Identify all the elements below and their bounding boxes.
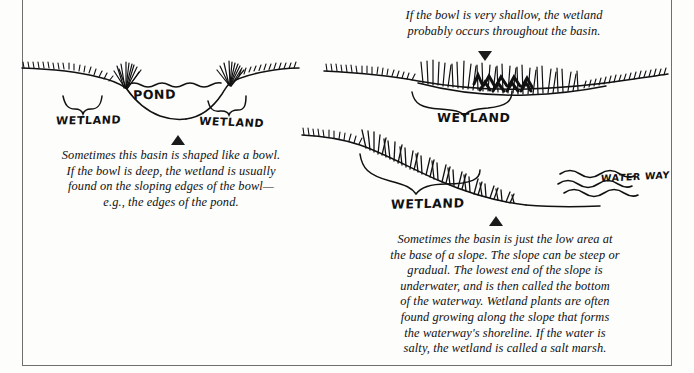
caption-line: gradual. The lowest end of the slope is bbox=[352, 263, 658, 279]
caption-line: underwater, and is then called the botto… bbox=[352, 279, 658, 295]
label-pond: POND bbox=[133, 86, 176, 102]
caption-shallow-basin: If the bowl is very shallow, the wetland… bbox=[366, 8, 642, 39]
caption-slope-basin: Sometimes the basin is just the low area… bbox=[352, 232, 658, 357]
marker-triangle-pond bbox=[171, 135, 185, 145]
caption-line: probably occurs throughout the basin. bbox=[366, 24, 642, 40]
caption-line: found on the sloping edges of the bowl— bbox=[28, 179, 314, 195]
caption-line: of the waterway. Wetland plants are ofte… bbox=[352, 294, 658, 310]
label-wetland-slope: WETLAND bbox=[391, 195, 465, 211]
caption-line: found growing along the slope that forms bbox=[352, 310, 658, 326]
page-rule-left bbox=[22, 0, 23, 366]
caption-line: the base of a slope. The slope can be st… bbox=[352, 248, 658, 264]
page-rule-bottom bbox=[22, 365, 672, 366]
caption-line: If the bowl is deep, the wetland is usua… bbox=[28, 164, 314, 180]
illustration-page: POND WETLAND WETLAND Sometimes this basi… bbox=[0, 0, 694, 373]
label-wetland-right: WETLAND bbox=[198, 115, 265, 130]
label-wetland-left: WETLAND bbox=[56, 113, 122, 127]
caption-pond-basin: Sometimes this basin is shaped like a bo… bbox=[28, 148, 314, 210]
marker-triangle-slope bbox=[489, 216, 503, 226]
caption-line: e.g., the edges of the pond. bbox=[28, 195, 314, 211]
caption-line: If the bowl is very shallow, the wetland bbox=[366, 8, 642, 24]
caption-line: Sometimes this basin is shaped like a bo… bbox=[28, 148, 314, 164]
caption-line: salty, the wetland is called a salt mars… bbox=[352, 341, 658, 357]
label-wetland-shallow: WETLAND bbox=[437, 110, 511, 125]
caption-line: the waterway's shoreline. If the water i… bbox=[352, 326, 658, 342]
caption-line: Sometimes the basin is just the low area… bbox=[352, 232, 658, 248]
